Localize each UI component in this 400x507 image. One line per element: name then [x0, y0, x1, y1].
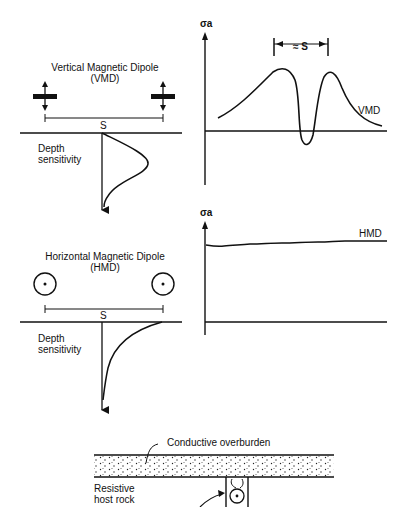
dike-dipole-icon	[230, 489, 244, 503]
host-rock-label: Resistive host rock	[94, 483, 135, 505]
hmd-spacing-label: S	[100, 310, 107, 321]
hmd-axis-label: σa	[200, 207, 212, 218]
vmd-axis-label: σa	[200, 18, 212, 29]
vmd-sensitivity-curve	[102, 133, 148, 207]
hmd-title-line2: (HMD)	[35, 262, 175, 273]
overburden-layer	[94, 455, 334, 477]
host-rock-line1: Resistive	[94, 483, 135, 494]
hmd-title-line1: Horizontal Magnetic Dipole	[35, 251, 175, 262]
vmd-spacing-label: S	[100, 120, 107, 131]
hmd-receiver-icon	[152, 273, 174, 295]
vmd-peak-separation-label: ≈ S	[293, 41, 308, 52]
vmd-receiver-icon	[151, 81, 175, 111]
hmd-depth-line1: Depth	[38, 333, 81, 344]
vmd-title-line1: Vertical Magnetic Dipole	[35, 62, 175, 73]
hmd-title: Horizontal Magnetic Dipole (HMD)	[35, 251, 175, 273]
vmd-depth-line1: Depth	[38, 143, 81, 154]
hmd-curve-label: HMD	[359, 228, 382, 239]
vmd-depth-label: Depth sensitivity	[38, 143, 81, 165]
hmd-depth-label: Depth sensitivity	[38, 333, 81, 355]
vmd-title: Vertical Magnetic Dipole (VMD)	[35, 62, 175, 84]
dike-pointer-arrow	[200, 494, 222, 507]
hmd-transmitter-icon	[34, 273, 56, 295]
vmd-curve-label: VMD	[358, 105, 380, 116]
hmd-response-curve	[206, 241, 387, 246]
host-rock-line2: host rock	[94, 494, 135, 505]
vmd-title-line2: (VMD)	[35, 73, 175, 84]
vmd-transmitter-icon	[33, 81, 57, 111]
vmd-depth-line2: sensitivity	[38, 154, 81, 165]
hmd-sensitivity-curve	[103, 322, 162, 400]
overburden-label: Conductive overburden	[167, 437, 270, 448]
hmd-depth-line2: sensitivity	[38, 344, 81, 355]
